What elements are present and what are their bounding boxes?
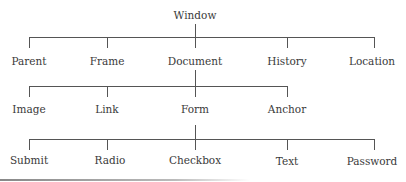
connector: [107, 37, 108, 48]
connector: [195, 70, 196, 87]
connector: [195, 86, 196, 97]
connector: [107, 86, 108, 97]
connector: [29, 139, 375, 140]
node-history: History: [267, 55, 306, 67]
node-submit: Submit: [10, 154, 48, 166]
connector: [374, 37, 375, 48]
node-frame: Frame: [90, 55, 125, 67]
connector: [195, 139, 196, 150]
connector: [287, 37, 288, 48]
node-checkbox: Checkbox: [169, 154, 221, 166]
bottom-rule: [0, 179, 250, 181]
node-form: Form: [181, 103, 209, 115]
node-text: Text: [276, 155, 299, 167]
connector: [195, 37, 196, 48]
node-parent: Parent: [11, 55, 46, 67]
connector: [107, 139, 108, 150]
connector: [287, 139, 288, 150]
connector: [195, 125, 196, 140]
node-location: Location: [349, 55, 395, 67]
node-window: Window: [174, 9, 217, 21]
connector: [287, 86, 288, 97]
connector: [29, 139, 30, 150]
connector: [29, 86, 30, 97]
connector: [29, 86, 288, 87]
node-document: Document: [168, 55, 223, 67]
node-link: Link: [95, 103, 118, 115]
connector: [195, 24, 196, 37]
connector: [29, 37, 375, 38]
node-image: Image: [12, 103, 45, 115]
connector: [29, 37, 30, 48]
node-password: Password: [347, 155, 398, 167]
connector: [374, 139, 375, 150]
node-radio: Radio: [95, 154, 126, 166]
node-anchor: Anchor: [268, 103, 306, 115]
